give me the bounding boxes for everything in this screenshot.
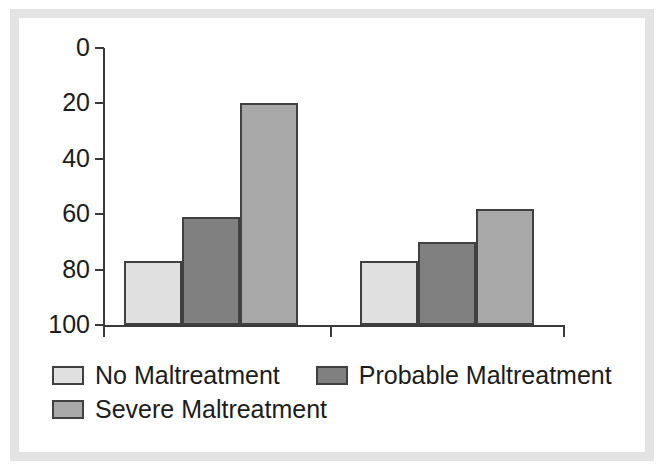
legend-entry-no-maltreatment[interactable]: No Maltreatment <box>52 363 280 388</box>
legend-entry-probable-maltreatment[interactable]: Probable Maltreatment <box>316 363 612 388</box>
y-axis-tick-label-wrap-60: 40 <box>30 146 90 171</box>
x-axis-center-tick <box>330 327 332 337</box>
bar-g1-no-maltreatment <box>124 261 182 325</box>
bar-g1-severe-maltreatment <box>240 103 298 325</box>
legend-row-2: Severe Maltreatment <box>52 392 632 426</box>
legend-swatch-severe-maltreatment <box>52 400 84 419</box>
y-axis-line <box>103 48 105 327</box>
y-axis-tick-label-0: 100 <box>38 312 90 337</box>
x-axis-end-tick <box>563 327 565 337</box>
legend-swatch-no-maltreatment <box>52 366 84 385</box>
y-axis-tick-label-wrap-20: 80 <box>30 257 90 282</box>
y-axis-tick-label-wrap-100: 0 <box>30 35 90 60</box>
legend-label-no-maltreatment: No Maltreatment <box>95 363 280 388</box>
y-axis-tick-label-40: 60 <box>38 201 90 226</box>
y-axis-tick-label-60: 40 <box>38 146 90 171</box>
bar-g1-probable-maltreatment <box>182 217 240 325</box>
legend-row-1: No MaltreatmentProbable Maltreatment <box>52 358 632 392</box>
bar-g2-no-maltreatment <box>360 261 418 325</box>
y-axis-tick-label-20: 80 <box>38 257 90 282</box>
bar-g2-severe-maltreatment <box>476 209 534 325</box>
figure-root: 100806040200 No MaltreatmentProbable Mal… <box>0 0 664 472</box>
y-axis-tick-label-wrap-80: 20 <box>30 90 90 115</box>
legend-swatch-probable-maltreatment <box>316 366 348 385</box>
bar-g2-probable-maltreatment <box>418 242 476 325</box>
x-axis-start-tick <box>103 327 105 337</box>
y-axis-tick-label-wrap-0: 100 <box>30 312 90 337</box>
chart-legend: No MaltreatmentProbable MaltreatmentSeve… <box>52 358 632 426</box>
y-axis-tick-label-wrap-40: 60 <box>30 201 90 226</box>
x-axis-line <box>103 325 565 327</box>
legend-entry-severe-maltreatment[interactable]: Severe Maltreatment <box>52 397 327 422</box>
legend-label-severe-maltreatment: Severe Maltreatment <box>95 397 327 422</box>
legend-label-probable-maltreatment: Probable Maltreatment <box>359 363 612 388</box>
y-axis-tick-label-100: 0 <box>38 35 90 60</box>
y-axis-tick-label-80: 20 <box>38 90 90 115</box>
